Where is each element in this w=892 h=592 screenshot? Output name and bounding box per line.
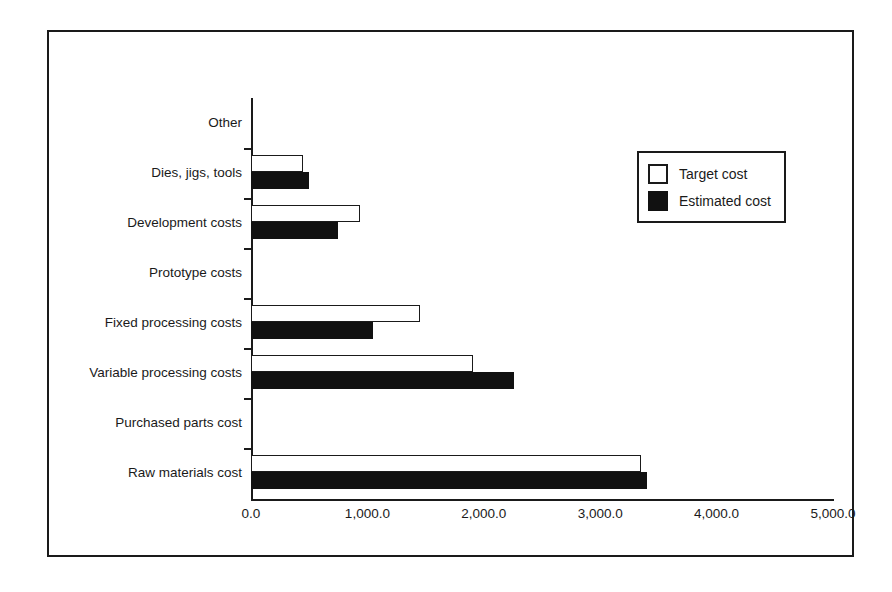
filled-square-swatch-icon [648,191,668,211]
category-label: Prototype costs [149,266,242,280]
bar-estimated [251,172,309,189]
y-axis-tick [244,248,251,250]
chart-legend: Target cost Estimated cost [637,151,786,223]
y-axis-tick [244,148,251,150]
y-axis-tick [244,198,251,200]
x-axis-tick-label: 5,000.0 [810,506,855,521]
category-label: Dies, jigs, tools [151,166,242,180]
x-axis-tick-label: 1,000.0 [345,506,390,521]
bar-group-prototype-costs: Prototype costs [251,248,833,298]
legend-label: Estimated cost [679,193,771,209]
bar-group-purchased-parts-cost: Purchased parts cost [251,398,833,448]
y-axis-tick [244,348,251,350]
category-label: Variable processing costs [89,366,242,380]
x-axis-tick-label: 3,000.0 [578,506,623,521]
bar-estimated [251,472,647,489]
x-axis-tick-label: 4,000.0 [694,506,739,521]
y-axis-tick [244,398,251,400]
bar-group-raw-materials-cost: Raw materials cost [251,448,833,498]
legend-entry-target-cost: Target cost [648,160,771,187]
category-label: Fixed processing costs [105,316,242,330]
x-axis-tick-label: 2,000.0 [461,506,506,521]
bar-target [251,305,420,322]
chart-figure-frame: Other Dies, jigs, tools Development cost… [47,30,854,557]
hollow-square-swatch-icon [648,164,668,184]
x-axis-line [251,499,834,501]
legend-entry-estimated-cost: Estimated cost [648,187,771,214]
y-axis-tick [244,298,251,300]
bar-estimated [251,222,338,239]
bar-estimated [251,372,514,389]
x-axis-tick-label: 0.0 [242,506,261,521]
category-label: Purchased parts cost [115,416,242,430]
bar-target [251,355,473,372]
category-label: Raw materials cost [128,466,242,480]
bar-group-fixed-processing-costs: Fixed processing costs [251,298,833,348]
bar-target [251,155,303,172]
category-label: Development costs [127,216,242,230]
bar-target [251,455,641,472]
bar-group-other: Other [251,98,833,148]
bar-group-variable-processing-costs: Variable processing costs [251,348,833,398]
y-axis-tick [244,448,251,450]
bar-target [251,205,360,222]
category-label: Other [208,116,242,130]
legend-label: Target cost [679,166,747,182]
bar-estimated [251,322,373,339]
